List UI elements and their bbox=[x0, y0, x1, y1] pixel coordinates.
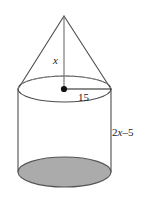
cylinder-height-label: 2x–5 bbox=[112, 127, 133, 138]
cylinder-height-constant: –5 bbox=[122, 126, 133, 138]
center-point-dot bbox=[61, 86, 67, 92]
cylinder-base-shaded-ellipse bbox=[18, 157, 111, 187]
cone-height-label: x bbox=[53, 55, 58, 66]
composite-solid-figure: x 15 2x–5 bbox=[0, 0, 147, 202]
radius-label: 15 bbox=[78, 92, 89, 103]
solid-diagram-svg bbox=[0, 0, 147, 202]
